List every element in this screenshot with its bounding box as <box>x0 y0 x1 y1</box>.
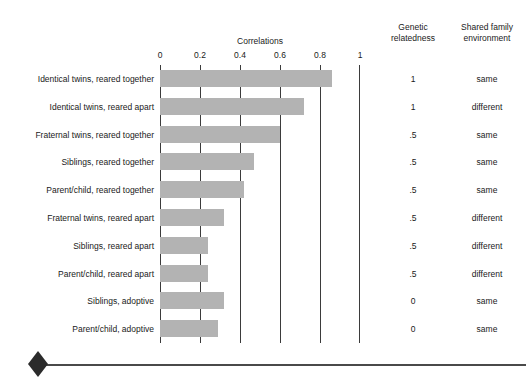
shared-family-environment-value: same <box>448 157 526 167</box>
footer-rule <box>36 364 526 366</box>
bar <box>160 126 280 143</box>
genetic-relatedness-value: .5 <box>376 269 450 279</box>
x-tick-label-2: 0.4 <box>228 50 252 60</box>
genetic-relatedness-value: 0 <box>376 324 450 334</box>
bar <box>160 265 208 282</box>
shared-family-environment-value: same <box>448 296 526 306</box>
column-header-shared-line2: environment <box>448 33 526 44</box>
shared-family-environment-value: same <box>448 324 526 334</box>
bar <box>160 181 244 198</box>
shared-family-environment-value: same <box>448 130 526 140</box>
genetic-relatedness-value: .5 <box>376 157 450 167</box>
bar <box>160 292 224 309</box>
diamond-marker-icon <box>28 351 48 377</box>
bar <box>160 209 224 226</box>
shared-family-environment-value: different <box>448 213 526 223</box>
category-label: Siblings, adoptive <box>0 296 154 306</box>
genetic-relatedness-value: .5 <box>376 185 450 195</box>
column-header-genetic-line2: relatedness <box>376 33 450 44</box>
gridline-5 <box>359 65 360 343</box>
bar <box>160 237 208 254</box>
genetic-relatedness-value: 1 <box>376 74 450 84</box>
category-label: Identical twins, reared apart <box>0 102 154 112</box>
x-tick-label-5: 1 <box>348 50 372 60</box>
category-label: Parent/child, reared apart <box>0 269 154 279</box>
column-header-shared-family-environment: Shared family environment <box>448 22 526 44</box>
bar <box>160 98 304 115</box>
category-label: Fraternal twins, reared apart <box>0 213 154 223</box>
category-label: Identical twins, reared together <box>0 74 154 84</box>
column-header-genetic-relatedness: Genetic relatedness <box>376 22 450 44</box>
gridline-4 <box>320 65 321 343</box>
bar <box>160 320 218 337</box>
column-header-shared-line1: Shared family <box>448 22 526 33</box>
category-label: Siblings, reared apart <box>0 241 154 251</box>
genetic-relatedness-value: 0 <box>376 296 450 306</box>
shared-family-environment-value: same <box>448 74 526 84</box>
column-header-genetic-line1: Genetic <box>376 22 450 33</box>
category-label: Parent/child, adoptive <box>0 324 154 334</box>
x-tick-label-1: 0.2 <box>188 50 212 60</box>
category-label: Parent/child, reared together <box>0 185 154 195</box>
chart-title: Correlations <box>160 36 360 46</box>
category-label: Siblings, reared together <box>0 157 154 167</box>
shared-family-environment-value: different <box>448 241 526 251</box>
category-label: Fraternal twins, reared together <box>0 130 154 140</box>
genetic-relatedness-value: .5 <box>376 213 450 223</box>
plot-area <box>160 65 360 343</box>
x-tick-label-4: 0.8 <box>308 50 332 60</box>
shared-family-environment-value: same <box>448 185 526 195</box>
genetic-relatedness-value: .5 <box>376 241 450 251</box>
bar <box>160 70 332 87</box>
genetic-relatedness-value: .5 <box>376 130 450 140</box>
shared-family-environment-value: different <box>448 102 526 112</box>
shared-family-environment-value: different <box>448 269 526 279</box>
x-tick-label-0: 0 <box>148 50 172 60</box>
figure-root: Genetic relatedness Shared family enviro… <box>0 0 526 384</box>
genetic-relatedness-value: 1 <box>376 102 450 112</box>
bar <box>160 153 254 170</box>
x-tick-label-3: 0.6 <box>268 50 292 60</box>
